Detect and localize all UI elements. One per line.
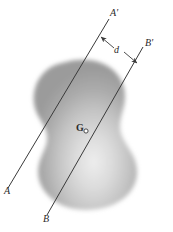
distance-arrow-to-axis-b: [124, 52, 137, 63]
label-axis-b-start: B: [43, 214, 49, 224]
label-axis-a-end: A': [110, 8, 118, 18]
label-distance-d: d: [114, 45, 119, 55]
figure-canvas: A A' B B' d G: [0, 0, 173, 232]
distance-arrow-to-axis-a: [101, 37, 114, 48]
centroid-marker: [84, 129, 88, 133]
label-axis-a-start: A: [4, 186, 10, 196]
label-axis-b-end: B': [145, 38, 153, 48]
figure-vector-layer: [0, 0, 173, 232]
body-shape: [34, 60, 137, 210]
label-centroid-g: G: [76, 123, 84, 133]
